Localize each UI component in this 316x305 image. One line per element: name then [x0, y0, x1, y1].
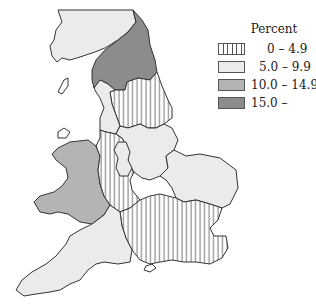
legend-label: 0 – 4.9	[267, 42, 307, 56]
legend-label: 5.0 – 9.9	[259, 60, 311, 74]
region-south-west	[16, 205, 132, 296]
legend-item: 5.0 – 9.9	[218, 58, 316, 76]
legend-swatch-light	[218, 61, 245, 73]
legend-item: 10.0 – 14.9	[218, 76, 316, 94]
legend-swatch-medium	[218, 79, 245, 91]
legend-title: Percent	[232, 22, 316, 36]
region-south-east	[120, 194, 228, 264]
legend-label: 15.0 –	[251, 96, 288, 110]
legend-item: 15.0 –	[218, 94, 316, 112]
legend-label: 10.0 – 14.9	[251, 78, 316, 92]
legend-swatch-dark	[218, 97, 245, 109]
island-isle-of-man	[58, 78, 68, 94]
island-anglesey	[58, 128, 70, 138]
map-legend: Percent 0 – 4.9 5.0 – 9.9 10.0 – 14.9 15…	[218, 22, 316, 112]
legend-item: 0 – 4.9	[218, 40, 316, 58]
legend-swatch-hatch	[218, 43, 245, 55]
island-isle-of-wight	[144, 264, 156, 272]
